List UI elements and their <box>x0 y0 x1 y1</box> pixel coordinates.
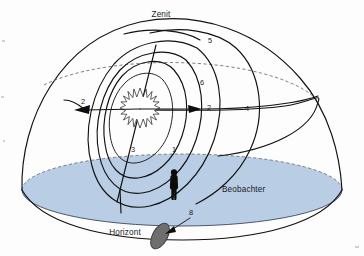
marker-6: 6 <box>200 78 204 87</box>
sun-icon <box>120 88 160 128</box>
marker-2-right: 2 <box>207 103 211 112</box>
label-zenith: Zenit <box>152 10 172 19</box>
marker-2-left: 2 <box>81 97 85 106</box>
celestial-equator-dashed <box>44 63 318 102</box>
diagram-canvas: Zenit Horizont Beobachter 1 2 2 3 4 5 6 … <box>0 0 364 256</box>
marker-5: 5 <box>208 36 212 45</box>
label-horizon: Horizont <box>109 228 141 237</box>
marker-1: 1 <box>172 145 176 154</box>
great-circle-4 <box>140 96 319 156</box>
horizon-plane <box>22 154 342 226</box>
marker-4: 4 <box>245 104 249 113</box>
celestial-sphere-diagram: Zenit Horizont Beobachter 1 2 2 3 4 5 6 … <box>0 0 364 256</box>
label-observer: Beobachter <box>222 185 266 194</box>
marker-3: 3 <box>131 145 135 154</box>
marker-8: 8 <box>189 208 193 217</box>
